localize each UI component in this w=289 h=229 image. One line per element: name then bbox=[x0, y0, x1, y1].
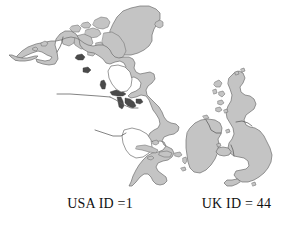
island-orkney bbox=[235, 71, 239, 75]
island-uist bbox=[213, 89, 217, 94]
usa-id-caption: USA ID =1 bbox=[0, 196, 200, 212]
arctic-island-ellesmere bbox=[93, 17, 110, 29]
great-lakes-ontario bbox=[136, 99, 143, 104]
island-lesser-antilles bbox=[183, 157, 187, 164]
island-shetland bbox=[241, 68, 245, 72]
island-skye bbox=[219, 91, 225, 97]
gulf-of-mexico bbox=[122, 128, 152, 158]
island-wight bbox=[252, 182, 256, 186]
world-map-illustration bbox=[0, 0, 289, 229]
ireland-shape bbox=[186, 119, 222, 173]
ireland-islet-north bbox=[203, 115, 209, 119]
lake-winnipeg bbox=[100, 80, 106, 89]
uk-id-caption: UK ID = 44 bbox=[184, 196, 289, 212]
island-arran bbox=[224, 109, 228, 113]
usa-mexico-border bbox=[95, 130, 126, 136]
north-america-shape bbox=[15, 31, 179, 186]
lake-great-bear bbox=[75, 54, 85, 60]
island-trinidad bbox=[181, 167, 186, 171]
arctic-island-melville bbox=[70, 25, 81, 32]
great-britain-shape bbox=[226, 71, 272, 182]
island-lewis-harris bbox=[214, 80, 222, 87]
lake-great-slave bbox=[83, 67, 91, 73]
country-id-figure: USA ID =1 UK ID = 44 bbox=[0, 0, 289, 229]
island-islay bbox=[216, 107, 222, 112]
usa-canada-border bbox=[57, 94, 110, 97]
island-man bbox=[226, 129, 230, 133]
island-anglesey bbox=[217, 143, 221, 147]
island-mull bbox=[218, 100, 224, 105]
island-puerto-rico bbox=[175, 152, 182, 157]
arctic-island-small-north bbox=[81, 22, 91, 28]
cornwall-tip bbox=[224, 179, 240, 186]
